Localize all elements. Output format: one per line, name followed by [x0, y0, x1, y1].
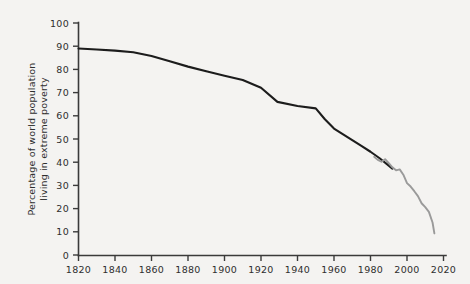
- y-tick-label-100: 100: [50, 18, 69, 29]
- y-tick-label-80: 80: [56, 64, 69, 75]
- x-tick-label-2020: 2020: [431, 264, 456, 275]
- series-line-recent-measured: [374, 157, 434, 234]
- axes-group: [79, 23, 447, 256]
- y-tick-label-20: 20: [56, 203, 69, 214]
- y-axis-title-group: Percentage of world population living in…: [26, 63, 49, 216]
- y-tick-label-50: 50: [56, 134, 69, 145]
- y-tick-label-30: 30: [56, 180, 69, 191]
- series-group: [79, 49, 435, 234]
- series-line-historical-estimate: [79, 49, 393, 169]
- x-tick-label-2000: 2000: [394, 264, 419, 275]
- x-tick-label-1900: 1900: [212, 264, 237, 275]
- chart-figure: 100 90 80 70 60 50 40 30 20 10 0 1820: [0, 0, 470, 284]
- y-tick-label-60: 60: [56, 110, 69, 121]
- x-tick-label-1860: 1860: [139, 264, 164, 275]
- y-axis-title-line2: living in extreme poverty: [38, 77, 49, 201]
- y-ticks-group: 100 90 80 70 60 50 40 30 20 10 0: [50, 18, 79, 261]
- x-tick-label-1880: 1880: [175, 264, 200, 275]
- x-ticks-group: 1820 1840 1860 1880 1900 1920 1940 1960 …: [66, 256, 456, 276]
- x-tick-label-1820: 1820: [66, 264, 91, 275]
- x-tick-label-1940: 1940: [285, 264, 310, 275]
- x-tick-label-1840: 1840: [102, 264, 127, 275]
- poverty-line-chart: 100 90 80 70 60 50 40 30 20 10 0 1820: [0, 0, 470, 284]
- x-tick-label-1960: 1960: [321, 264, 346, 275]
- y-tick-label-70: 70: [56, 87, 69, 98]
- x-tick-label-1920: 1920: [248, 264, 273, 275]
- y-tick-label-0: 0: [63, 250, 69, 261]
- x-tick-label-1980: 1980: [358, 264, 383, 275]
- y-axis-title-line1: Percentage of world population: [26, 63, 37, 216]
- y-tick-label-40: 40: [56, 157, 69, 168]
- y-tick-label-90: 90: [56, 41, 69, 52]
- y-tick-label-10: 10: [56, 226, 69, 237]
